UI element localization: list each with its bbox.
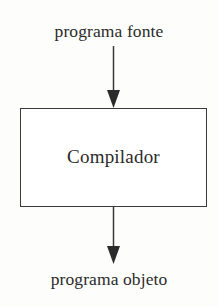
input-arrow-head [107, 90, 120, 108]
input-arrow [0, 46, 218, 110]
output-label: programa objeto [0, 267, 218, 291]
compiler-flowchart: programa fonte Compilador programa objet… [0, 0, 218, 307]
process-box-label: Compilador [67, 146, 160, 168]
process-box: Compilador [20, 108, 207, 207]
output-arrow-head [107, 246, 120, 264]
output-arrow [0, 206, 218, 268]
input-label: programa fonte [0, 19, 218, 43]
